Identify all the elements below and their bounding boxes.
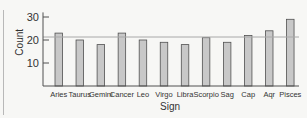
x-tick-label: Scorpio xyxy=(193,90,218,99)
bar-sag xyxy=(223,42,231,86)
x-tick-label: Taurus xyxy=(69,90,92,99)
y-tick-label: 10 xyxy=(27,57,39,69)
x-tick-label: Sag xyxy=(220,90,233,99)
x-tick-label: Cap xyxy=(241,90,255,99)
bar-gemini xyxy=(97,45,105,86)
bar-cap xyxy=(244,35,252,86)
y-ticks-group: 102030 xyxy=(27,11,49,69)
bar-leo xyxy=(139,40,147,86)
bar-virgo xyxy=(160,42,168,86)
bar-pisces xyxy=(287,19,295,86)
x-labels-group: AriesTaurusGeminiCancerLeoVirgoLibraScor… xyxy=(50,90,301,99)
bar-scorpio xyxy=(202,38,210,86)
bar-aries xyxy=(55,33,63,86)
y-tick-label: 30 xyxy=(27,11,39,23)
bar-libra xyxy=(181,45,189,86)
x-tick-label: Virgo xyxy=(155,90,172,99)
x-tick-label: Pisces xyxy=(279,90,301,99)
x-tick-label: Libra xyxy=(177,90,195,99)
x-axis-title: Sign xyxy=(160,101,180,112)
x-tick-label: Cancer xyxy=(110,90,135,99)
bar-taurus xyxy=(76,40,84,86)
y-tick-label: 20 xyxy=(27,34,39,46)
x-tick-label: Aries xyxy=(50,90,67,99)
y-axis-title: Count xyxy=(14,29,25,56)
x-tick-label: Aqr xyxy=(263,90,275,99)
bar-aqr xyxy=(266,31,274,86)
bar-chart: 102030 AriesTaurusGeminiCancerLeoVirgoLi… xyxy=(0,0,307,118)
x-tick-label: Leo xyxy=(137,90,150,99)
bars-group xyxy=(55,19,294,86)
bar-cancer xyxy=(118,33,126,86)
